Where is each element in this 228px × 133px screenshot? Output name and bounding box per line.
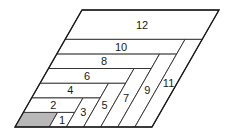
piece-label-6: 6: [84, 70, 90, 82]
piece-label-4: 4: [67, 84, 73, 96]
piece-label-1: 1: [59, 114, 65, 126]
piece-label-5: 5: [102, 99, 108, 111]
piece-label-2: 2: [50, 99, 56, 111]
nested-parallelogram-diagram: 123456789101112: [0, 0, 228, 133]
piece-label-11: 11: [163, 77, 174, 89]
pieces-layer: [15, 10, 219, 127]
piece-label-12: 12: [136, 19, 148, 31]
piece-label-7: 7: [123, 92, 129, 104]
piece-label-9: 9: [144, 84, 150, 96]
piece-label-3: 3: [80, 106, 86, 118]
piece-label-10: 10: [115, 41, 127, 53]
piece-label-8: 8: [101, 55, 107, 67]
